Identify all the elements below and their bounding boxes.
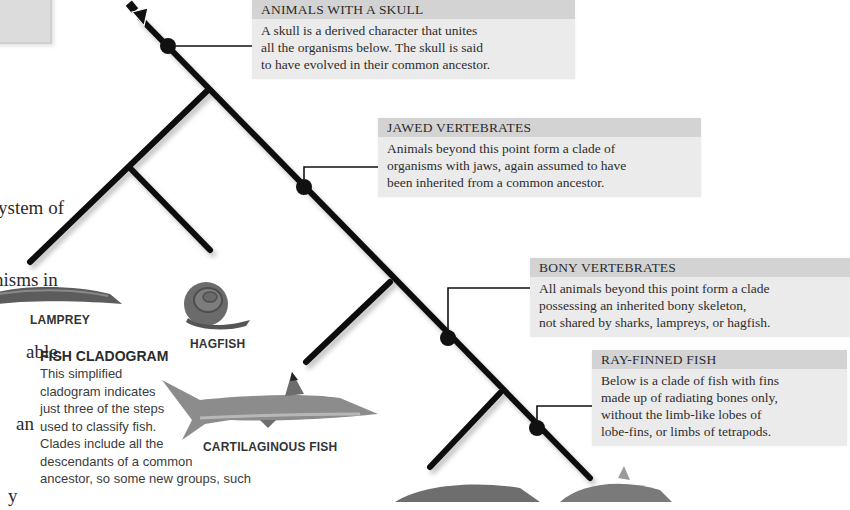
- callout-heading: RAY-FINNED FISH: [592, 350, 847, 369]
- lamprey-image: [0, 287, 122, 304]
- fish-cladogram-body: This simplified cladogram indicates just…: [40, 365, 251, 488]
- leader-jawed: [304, 167, 378, 179]
- caption-line: This simplified: [40, 365, 251, 383]
- callout-line: Below is a clade of fish with fins: [601, 372, 838, 389]
- label-lamprey: LAMPREY: [30, 313, 90, 327]
- callout-line: made up of radiating bones only,: [601, 389, 838, 406]
- caption-line: ancestor, so some new groups, such: [40, 470, 251, 488]
- caption-line: Clades include all the: [40, 435, 251, 453]
- arrow-icon: [126, 1, 148, 26]
- callout-bony-vertebrates: BONY VERTEBRATES All animals beyond this…: [530, 258, 850, 337]
- caption-line: descendants of a common: [40, 453, 251, 471]
- node-rayfinned: [529, 420, 545, 436]
- callout-line: without the limb-like lobes of: [601, 406, 838, 423]
- callout-line: Animals beyond this point form a clade o…: [387, 140, 692, 157]
- fish-cladogram-title: FISH CLADOGRAM: [40, 348, 168, 364]
- callout-heading: JAWED VERTEBRATES: [378, 118, 701, 137]
- callout-line: lobe-fins, or limbs of tetrapods.: [601, 423, 838, 440]
- caption-line: just three of the steps: [40, 400, 251, 418]
- label-hagfish: HAGFISH: [190, 337, 245, 351]
- callout-heading: BONY VERTEBRATES: [530, 258, 850, 277]
- callout-line: All animals beyond this point form a cla…: [539, 280, 841, 297]
- callout-body: A skull is a derived character that unit…: [252, 19, 575, 79]
- branch-hagfish: [130, 168, 210, 250]
- callout-line: possessing an inherited bony skeleton,: [539, 297, 841, 314]
- callout-line: all the organisms below. The skull is sa…: [261, 39, 566, 56]
- rayfinned-fish-image: [560, 466, 672, 502]
- caption-line: used to classify fish.: [40, 418, 251, 436]
- leader-rayfinned: [537, 406, 592, 420]
- callout-body: Below is a clade of fish with fins made …: [592, 369, 847, 446]
- callout-line: to have evolved in their common ancestor…: [261, 56, 566, 73]
- callout-jawed-vertebrates: JAWED VERTEBRATES Animals beyond this po…: [378, 118, 701, 197]
- caption-line: cladogram indicates: [40, 383, 251, 401]
- callout-line: been inherited from a common ancestor.: [387, 174, 692, 191]
- callout-body: Animals beyond this point form a clade o…: [378, 137, 701, 197]
- callout-line: organisms with jaws, again assumed to ha…: [387, 157, 692, 174]
- branch-lamprey: [30, 90, 208, 262]
- hagfish-image: [184, 282, 250, 329]
- lobefin-fish-image: [395, 484, 540, 502]
- node-jawed: [296, 179, 312, 195]
- callout-line: not shared by sharks, lampreys, or hagfi…: [539, 314, 841, 331]
- callout-line: A skull is a derived character that unit…: [261, 22, 566, 39]
- callout-animals-with-skull: ANIMALS WITH A SKULL A skull is a derive…: [252, 0, 575, 79]
- callout-ray-finned-fish: RAY-FINNED FISH Below is a clade of fish…: [592, 350, 847, 446]
- branch-rayfinned: [430, 393, 500, 467]
- callout-heading: ANIMALS WITH A SKULL: [252, 0, 575, 19]
- leader-bony: [448, 288, 530, 330]
- node-skull: [160, 38, 176, 54]
- branch-cartilaginous: [306, 282, 390, 362]
- callout-body: All animals beyond this point form a cla…: [530, 277, 850, 337]
- node-bony: [440, 330, 456, 346]
